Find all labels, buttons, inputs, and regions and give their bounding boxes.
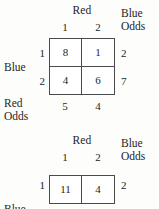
figure-canvas: Red 1 2 Blue Odds Blue 1 2 8 1 4 6 2 7 R… — [0, 0, 159, 209]
matrix-1-row-group-label: Blue — [4, 62, 26, 73]
matrix-2-column-group-label: Red — [49, 135, 115, 146]
payoff-matrix-2: Red 1 2 Blue Odds 1 11 4 2 Blue — [0, 130, 159, 209]
matrix-1-column-odds-2: 4 — [90, 101, 106, 112]
matrix-1-bottom-label-line1: Red — [4, 97, 28, 110]
matrix-1-row-header-2: 2 — [33, 76, 45, 87]
matrix-2-corner-label: Blue Odds — [121, 137, 145, 162]
matrix-2-corner-label-line1: Blue — [121, 137, 145, 150]
matrix-1-corner-label-line1: Blue — [121, 7, 145, 20]
matrix-2-grid: 11 4 — [49, 175, 115, 204]
matrix-1-row-header-1: 1 — [33, 48, 45, 59]
matrix-2-cell-r1c1: 11 — [50, 176, 82, 203]
matrix-1-corner-label-line2: Odds — [121, 20, 145, 33]
matrix-1-bottom-label: Red Odds — [4, 97, 28, 122]
matrix-2-row-header-1: 1 — [33, 180, 45, 191]
matrix-1-row-odds-2: 7 — [121, 76, 135, 87]
matrix-1-cell-r1c2: 1 — [82, 39, 114, 67]
matrix-2-row-group-label: Blue — [4, 204, 26, 209]
matrix-2-corner-label-line2: Odds — [121, 150, 145, 163]
matrix-1-corner-label: Blue Odds — [121, 7, 145, 32]
matrix-1-cell-r1c1: 8 — [50, 39, 82, 67]
matrix-1-column-header-1: 1 — [57, 22, 73, 33]
matrix-1-column-group-label: Red — [49, 5, 115, 16]
matrix-1-column-header-2: 2 — [90, 22, 106, 33]
matrix-2-cell-r1c2: 4 — [82, 176, 114, 203]
matrix-1-cell-r2c1: 4 — [50, 67, 82, 95]
matrix-2-column-header-1: 1 — [57, 152, 73, 163]
matrix-1-row-odds-1: 2 — [121, 48, 135, 59]
matrix-1-cell-r2c2: 6 — [82, 67, 114, 95]
matrix-2-row-odds-1: 2 — [121, 180, 135, 191]
payoff-matrix-1: Red 1 2 Blue Odds Blue 1 2 8 1 4 6 2 7 R… — [0, 0, 159, 125]
matrix-1-column-odds-1: 5 — [57, 101, 73, 112]
matrix-2-column-header-2: 2 — [90, 152, 106, 163]
matrix-1-grid: 8 1 4 6 — [49, 38, 115, 95]
matrix-1-bottom-label-line2: Odds — [4, 110, 28, 123]
